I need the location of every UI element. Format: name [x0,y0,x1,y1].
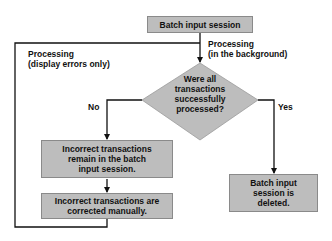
batch-input-session-box: Batch input session [147,16,253,33]
flowchart: Batch input session Processing (in the b… [0,0,332,241]
session-deleted-label: Batch input session is deleted. [250,178,297,208]
corrected-manually-box: Incorrect transactions are corrected man… [41,193,173,219]
edge-label-display-errors: Processing (display errors only) [28,50,110,69]
edge-label-yes: Yes [278,103,293,113]
edge-label-background: Processing (in the background) [208,40,287,59]
batch-input-session-label: Batch input session [160,20,241,30]
session-deleted-box: Batch input session is deleted. [229,174,318,212]
incorrect-remain-box: Incorrect transactions remain in the bat… [41,140,173,178]
corrected-manually-label: Incorrect transactions are corrected man… [55,196,159,216]
edge-label-no: No [88,103,99,113]
arrow-yes [258,100,274,173]
decision-label: Were all transactions successfully proce… [160,74,240,114]
incorrect-remain-label: Incorrect transactions remain in the bat… [62,144,151,174]
arrow-no [107,100,142,139]
